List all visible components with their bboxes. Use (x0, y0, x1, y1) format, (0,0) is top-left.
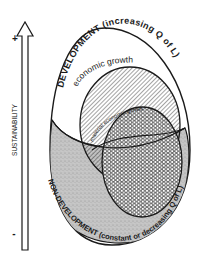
sustainability-label: SUSTAINABILITY (11, 103, 18, 156)
up-arrow-icon (17, 22, 33, 250)
minus-label: - (12, 228, 15, 239)
sustainability-axis: + - SUSTAINABILITY (11, 22, 33, 250)
sustainability-diagram: + - SUSTAINABILITY DEVELOPMENT (increasi… (0, 0, 210, 257)
plus-label: + (12, 33, 18, 44)
